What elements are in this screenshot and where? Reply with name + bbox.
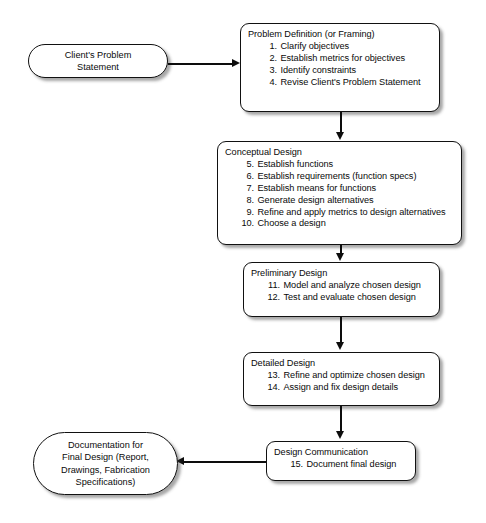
list-item: 11.Model and analyze chosen design — [260, 280, 436, 292]
design-communication-heading: Design Communication — [274, 447, 412, 459]
step-text: Establish requirements (function specs) — [258, 171, 417, 183]
step-text: Establish functions — [258, 159, 334, 171]
detailed-design-heading: Detailed Design — [251, 358, 436, 370]
step-number: 1. — [257, 41, 281, 53]
list-item: 1.Clarify objectives — [257, 41, 436, 53]
problem-definition-steps: 1.Clarify objectives 2.Establish metrics… — [248, 41, 436, 89]
step-text: Choose a design — [258, 218, 326, 230]
connector-problem-definition-to-conceptual — [340, 112, 342, 134]
list-item: 7.Establish means for functions — [234, 183, 458, 195]
conceptual-design-steps: 5.Establish functions 6.Establish requir… — [225, 159, 458, 230]
node-design-communication-text: Design Communication 15.Document final d… — [274, 447, 412, 471]
list-item: 12.Test and evaluate chosen design — [260, 292, 436, 304]
list-item: 14.Assign and fix design details — [260, 382, 436, 394]
step-text: Establish means for functions — [258, 183, 377, 195]
node-conceptual-design[interactable]: Conceptual Design 5.Establish functions … — [217, 141, 462, 245]
step-number: 5. — [234, 159, 258, 171]
node-documentation-final-design-text: Documentation for Final Design (Report, … — [53, 439, 158, 488]
step-text: Document final design — [307, 459, 397, 471]
step-number: 3. — [257, 65, 281, 77]
list-item: 5.Establish functions — [234, 159, 458, 171]
step-text: Clarify objectives — [281, 41, 350, 53]
list-item: 9.Refine and apply metrics to design alt… — [234, 207, 458, 219]
list-item: 8.Generate design alternatives — [234, 195, 458, 207]
node-detailed-design[interactable]: Detailed Design 13.Refine and optimize c… — [243, 352, 440, 406]
step-number: 8. — [234, 195, 258, 207]
step-number: 6. — [234, 171, 258, 183]
step-text: Revise Client's Problem Statement — [281, 77, 421, 89]
node-preliminary-design[interactable]: Preliminary Design 11.Model and analyze … — [243, 262, 440, 317]
problem-definition-heading: Problem Definition (or Framing) — [248, 29, 436, 41]
flowchart-canvas: Client's Problem Statement Problem Defin… — [0, 0, 486, 523]
connector-detailed-to-communication — [340, 406, 342, 433]
step-text: Generate design alternatives — [258, 195, 374, 207]
step-text: Establish metrics for objectives — [281, 53, 406, 65]
documentation-line-3: Drawings, Fabrication — [61, 465, 150, 475]
design-communication-steps: 15.Document final design — [274, 459, 412, 471]
connector-preliminary-to-detailed — [340, 317, 342, 344]
preliminary-design-heading: Preliminary Design — [251, 268, 436, 280]
arrowhead-conceptual-to-preliminary — [336, 253, 344, 261]
step-text: Test and evaluate chosen design — [284, 292, 416, 304]
step-text: Refine and apply metrics to design alter… — [258, 207, 446, 219]
step-number: 4. — [257, 77, 281, 89]
list-item: 2.Establish metrics for objectives — [257, 53, 436, 65]
step-number: 14. — [260, 382, 284, 394]
client-problem-line-2: Statement — [77, 62, 119, 72]
node-detailed-design-text: Detailed Design 13.Refine and optimize c… — [251, 358, 436, 394]
step-number: 2. — [257, 53, 281, 65]
list-item: 10.Choose a design — [234, 218, 458, 230]
step-number: 7. — [234, 183, 258, 195]
step-text: Identify constraints — [281, 65, 357, 77]
list-item: 4.Revise Client's Problem Statement — [257, 77, 436, 89]
list-item: 6.Establish requirements (function specs… — [234, 171, 458, 183]
connector-client-to-problem-definition — [168, 63, 234, 65]
documentation-line-4: Specifications) — [76, 477, 136, 487]
step-number: 15. — [283, 459, 307, 471]
node-client-problem-statement-text: Client's Problem Statement — [57, 49, 140, 73]
node-client-problem-statement[interactable]: Client's Problem Statement — [28, 44, 168, 78]
node-preliminary-design-text: Preliminary Design 11.Model and analyze … — [251, 268, 436, 304]
detailed-design-steps: 13.Refine and optimize chosen design 14.… — [251, 370, 436, 394]
conceptual-design-heading: Conceptual Design — [225, 147, 458, 159]
list-item: 3.Identify constraints — [257, 65, 436, 77]
step-text: Model and analyze chosen design — [284, 280, 421, 292]
node-documentation-final-design[interactable]: Documentation for Final Design (Report, … — [33, 432, 178, 495]
step-number: 10. — [234, 218, 258, 230]
node-conceptual-design-text: Conceptual Design 5.Establish functions … — [225, 147, 458, 230]
documentation-line-1: Documentation for — [68, 440, 143, 450]
step-text: Refine and optimize chosen design — [284, 370, 425, 382]
documentation-line-2: Final Design (Report, — [62, 452, 149, 462]
node-design-communication[interactable]: Design Communication 15.Document final d… — [266, 441, 416, 481]
node-problem-definition[interactable]: Problem Definition (or Framing) 1.Clarif… — [240, 23, 440, 112]
client-problem-line-1: Client's Problem — [65, 50, 132, 60]
connector-communication-to-documentation — [184, 461, 266, 463]
arrowhead-preliminary-to-detailed — [336, 342, 344, 350]
step-text: Assign and fix design details — [284, 382, 398, 394]
step-number: 11. — [260, 280, 284, 292]
step-number: 12. — [260, 292, 284, 304]
preliminary-design-steps: 11.Model and analyze chosen design 12.Te… — [251, 280, 436, 304]
node-problem-definition-text: Problem Definition (or Framing) 1.Clarif… — [248, 29, 436, 89]
arrowhead-problem-definition-to-conceptual — [336, 132, 344, 140]
list-item: 13.Refine and optimize chosen design — [260, 370, 436, 382]
arrowhead-detailed-to-communication — [336, 431, 344, 439]
step-number: 9. — [234, 207, 258, 219]
arrowhead-client-to-problem-definition — [232, 59, 240, 67]
list-item: 15.Document final design — [283, 459, 412, 471]
step-number: 13. — [260, 370, 284, 382]
